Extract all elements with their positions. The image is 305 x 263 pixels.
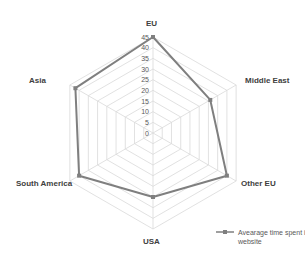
radial-tick-label: 20 xyxy=(141,87,149,94)
category-label-asia: Asia xyxy=(29,76,46,85)
radar-grid xyxy=(70,37,236,229)
data-point-marker xyxy=(225,174,229,178)
data-point-marker xyxy=(151,195,155,199)
radial-axis-ticks: 051015202530354045 xyxy=(141,34,149,137)
data-point-marker xyxy=(73,86,77,90)
radial-tick-label: 15 xyxy=(141,98,149,105)
series-line xyxy=(75,37,226,197)
grid-spoke xyxy=(153,85,236,133)
radial-tick-label: 35 xyxy=(141,55,149,62)
radial-tick-label: 40 xyxy=(141,44,149,51)
category-label-south-america: South America xyxy=(16,179,72,188)
legend: Avearage time spent in website xyxy=(216,228,305,246)
data-point-marker xyxy=(77,174,81,178)
category-label-middle-east: Middle East xyxy=(245,76,289,85)
data-point-marker xyxy=(208,98,212,102)
radial-tick-label: 0 xyxy=(145,130,149,137)
radial-tick-label: 5 xyxy=(145,119,149,126)
data-point-marker xyxy=(151,35,155,39)
category-label-usa: USA xyxy=(143,237,160,246)
category-label-eu: EU xyxy=(146,19,157,28)
legend-label: Avearage time spent in website xyxy=(238,228,305,246)
radial-tick-label: 25 xyxy=(141,76,149,83)
radial-tick-label: 10 xyxy=(141,108,149,115)
grid-spoke xyxy=(70,133,153,181)
radial-tick-label: 30 xyxy=(141,66,149,73)
radar-chart: 051015202530354045 xyxy=(0,0,305,263)
legend-line-marker-icon xyxy=(216,228,234,236)
category-label-other-eu: Other EU xyxy=(241,179,276,188)
